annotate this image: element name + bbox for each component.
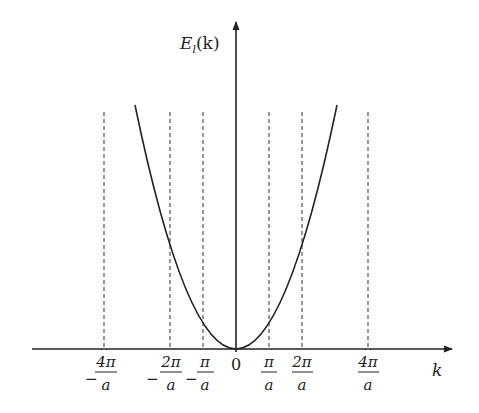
dispersion-diagram: El(k) k 0 − 4π a − 2π a − π a π a 2π a 4… [0,0,479,413]
svg-text:4π: 4π [95,353,117,371]
tick-label-pos4: 4π a [357,353,379,394]
tick-label-neg2: − 2π a [146,353,182,394]
svg-text:a: a [201,376,210,394]
svg-text:π: π [199,353,211,371]
tick-label-neg1: − π a [185,353,214,394]
svg-text:2π: 2π [291,353,313,371]
x-axis-label: k [432,360,442,380]
svg-text:a: a [167,376,176,394]
y-axis-label: El(k) [179,33,220,56]
svg-text:π: π [263,353,275,371]
svg-text:a: a [265,376,274,394]
origin-label: 0 [231,355,241,374]
svg-text:a: a [364,376,373,394]
tick-label-neg4: − 4π a [85,353,117,394]
svg-text:a: a [102,376,111,394]
svg-text:−: − [185,370,198,388]
tick-label-pos1: π a [261,353,277,394]
svg-text:−: − [146,370,159,388]
svg-text:2π: 2π [160,353,182,371]
tick-label-pos2: 2π a [291,353,313,394]
svg-text:4π: 4π [357,353,379,371]
svg-text:a: a [298,376,307,394]
svg-text:−: − [85,370,98,388]
